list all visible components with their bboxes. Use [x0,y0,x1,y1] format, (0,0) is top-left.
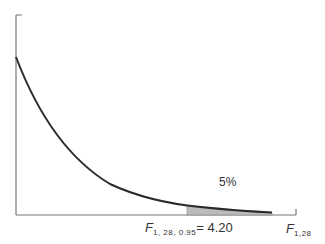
critical-value-label: F1, 28, 0.95= 4.20 [145,218,233,237]
critical-f-symbol: F [145,220,153,235]
critical-f-value: = 4.20 [196,220,233,235]
y-axis [16,15,22,215]
x-axis-f-symbol: F [286,221,294,236]
x-axis-label: F1,28 [286,219,312,238]
density-curve [16,57,272,213]
critical-f-subscript: 1, 28, 0.95 [153,228,196,237]
chart-canvas [0,0,325,244]
tail-percent-label: 5% [219,175,236,189]
x-axis-f-subscript: 1,28 [294,229,312,238]
